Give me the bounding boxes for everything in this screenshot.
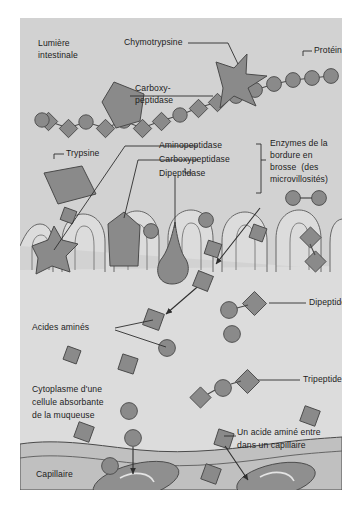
- label-aminopeptidase: Aminopeptidase: [159, 140, 222, 152]
- label-dipeptide: Dipeptide: [309, 297, 342, 309]
- label-trypsine: Trypsine: [66, 148, 99, 160]
- label-brush-border-line1: Enzymes de la: [270, 138, 328, 150]
- label-chymotrypsine: Chymotrypsine: [124, 37, 183, 49]
- chymotrypsine-shape: [216, 54, 267, 108]
- label-lumiere-intestinale-line1: Lumière: [38, 38, 70, 50]
- label-tripeptide: Tripeptide: [303, 374, 342, 386]
- label-cytoplasme-line1: Cytoplasme d'une: [32, 384, 102, 396]
- label-cytoplasme-line3: de la muqueuse: [32, 410, 95, 422]
- free-amino-acid: [35, 113, 49, 127]
- label-proteine: Protéine: [314, 45, 342, 57]
- label-brush-border-line4: microvillosités): [270, 174, 328, 186]
- label-acides-amines: Acides aminés: [32, 322, 89, 334]
- protein-chain: [39, 69, 338, 138]
- label-acide-amine-entre-line2: dans un capillaire: [237, 440, 306, 452]
- label-brush-border-line3: brosse (des: [270, 162, 319, 174]
- label-capillaire: Capillaire: [36, 469, 73, 481]
- trypsine-shape: [44, 166, 96, 204]
- label-carboxypeptidase-lumen-line1: Carboxy-: [135, 83, 171, 95]
- label-brush-border-line2: bordure en: [270, 150, 313, 162]
- label-carboxypeptidase-lumen-line2: peptidase: [135, 95, 173, 107]
- label-cytoplasme-line2: cellule absorbante: [32, 397, 104, 409]
- label-dipeptidase: Dipeptidase: [159, 168, 206, 180]
- digestion-diagram: Lumière intestinale Chymotrypsine Protéi…: [20, 18, 342, 490]
- label-lumiere-intestinale-line2: intestinale: [38, 50, 78, 62]
- label-acide-amine-entre-line1: Un acide aminé entre: [237, 427, 321, 439]
- label-carboxypeptidase-brush: Carboxypeptidase: [159, 154, 230, 166]
